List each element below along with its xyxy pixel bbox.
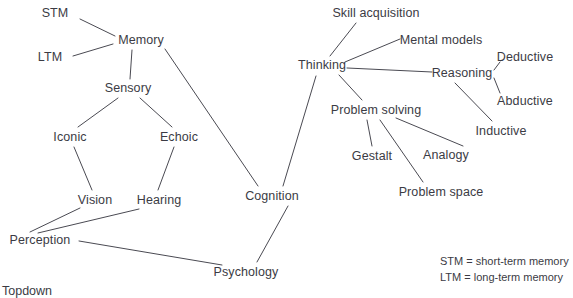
edge-reasoning-to-abductive xyxy=(494,78,500,93)
node-abductive: Abductive xyxy=(497,95,553,108)
node-cognition: Cognition xyxy=(245,190,299,203)
edge-vision-to-perception xyxy=(30,208,80,232)
node-sensory: Sensory xyxy=(105,82,152,95)
node-skill-acquisition: Skill acquisition xyxy=(332,7,419,20)
edge-ltm-to-memory xyxy=(73,44,113,56)
node-problem-space: Problem space xyxy=(399,186,484,199)
edge-problem-solving-to-analogy xyxy=(396,118,463,146)
edge-thinking-to-mental-models xyxy=(345,39,400,62)
node-mental-models: Mental models xyxy=(400,34,483,47)
edge-memory-to-sensory xyxy=(130,50,132,79)
node-inductive: Inductive xyxy=(476,125,527,138)
legend-line-stm: STM = short-term memory xyxy=(440,254,569,270)
edge-echoic-to-hearing xyxy=(158,147,174,190)
legend-line-ltm: LTM = long-term memory xyxy=(440,270,569,286)
edge-problem-solving-to-gestalt xyxy=(367,120,372,146)
node-stm: STM xyxy=(42,7,69,20)
edge-psychology-to-cognition xyxy=(257,206,288,262)
node-psychology: Psychology xyxy=(214,266,279,279)
edge-thinking-to-problem-solving xyxy=(339,75,362,100)
node-memory: Memory xyxy=(118,34,164,47)
legend: STM = short-term memory LTM = long-term … xyxy=(440,254,569,286)
edge-reasoning-to-inductive xyxy=(455,83,492,121)
edge-sensory-to-iconic xyxy=(78,98,118,127)
node-deductive: Deductive xyxy=(497,51,554,64)
node-hearing: Hearing xyxy=(137,194,181,207)
edge-iconic-to-vision xyxy=(74,147,92,190)
node-analogy: Analogy xyxy=(423,149,469,162)
node-reasoning: Reasoning xyxy=(432,67,493,80)
figure-caption: Topdown xyxy=(2,285,52,298)
edge-thinking-to-skill-acquisition xyxy=(330,23,356,56)
node-gestalt: Gestalt xyxy=(352,150,392,163)
edge-perception-to-psychology xyxy=(79,241,222,265)
node-thinking: Thinking xyxy=(298,59,346,72)
edge-memory-to-cognition xyxy=(165,49,258,186)
node-echoic: Echoic xyxy=(160,131,198,144)
node-vision: Vision xyxy=(78,194,112,207)
node-iconic: Iconic xyxy=(53,131,86,144)
edge-sensory-to-echoic xyxy=(140,98,172,127)
edge-thinking-to-reasoning xyxy=(347,68,432,72)
node-ltm: LTM xyxy=(38,51,62,64)
edge-cognition-to-thinking xyxy=(283,76,316,186)
node-problem-solving: Problem solving xyxy=(331,104,421,117)
edge-stm-to-memory xyxy=(80,19,115,36)
node-perception: Perception xyxy=(10,234,71,247)
